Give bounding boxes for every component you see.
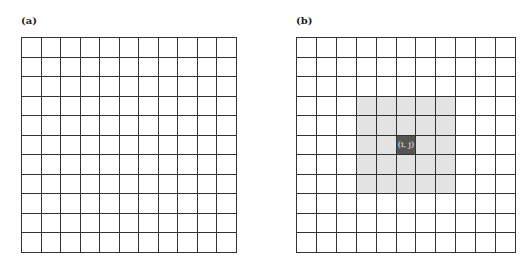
grid-cell	[178, 38, 198, 58]
grid-cell	[159, 136, 179, 156]
neighborhood-cell	[416, 155, 436, 175]
grid-cell	[139, 77, 159, 97]
grid-cell	[159, 97, 179, 117]
grid-cell	[81, 214, 101, 234]
grid-cell	[139, 97, 159, 117]
panel-b-label: (b)	[296, 15, 312, 26]
grid-cell	[416, 77, 436, 97]
grid-cell	[42, 97, 62, 117]
grid-cell	[100, 214, 120, 234]
grid-cell	[317, 175, 337, 195]
grid-cell	[456, 136, 476, 156]
grid-cell	[297, 214, 317, 234]
grid-cell	[436, 233, 456, 253]
grid-cell	[198, 38, 218, 58]
grid-cell	[337, 214, 357, 234]
grid-cell	[81, 155, 101, 175]
grid-cell	[436, 77, 456, 97]
neighborhood-cell	[416, 175, 436, 195]
grid-cell	[217, 233, 237, 253]
grid-cell	[81, 97, 101, 117]
grid-cell	[337, 38, 357, 58]
grid-cell	[178, 175, 198, 195]
grid-cell	[139, 194, 159, 214]
grid-cell	[139, 155, 159, 175]
neighborhood-cell	[436, 116, 456, 136]
grid-cell	[139, 136, 159, 156]
grid-cell	[416, 194, 436, 214]
grid-cell	[297, 194, 317, 214]
grid-cell	[496, 58, 516, 78]
grid-cell	[357, 194, 377, 214]
grid-cell	[100, 77, 120, 97]
grid-cell	[476, 233, 496, 253]
grid-cell	[357, 233, 377, 253]
grid-cell	[42, 116, 62, 136]
grid-cell	[476, 175, 496, 195]
grid-cell	[456, 214, 476, 234]
grid-cell	[476, 38, 496, 58]
grid-cell	[178, 77, 198, 97]
grid-cell	[496, 38, 516, 58]
grid-cell	[337, 175, 357, 195]
grid-cell	[456, 194, 476, 214]
grid-cell	[217, 214, 237, 234]
grid-cell	[317, 116, 337, 136]
grid-cell	[22, 175, 42, 195]
grid-cell	[357, 214, 377, 234]
grid-cell	[337, 155, 357, 175]
grid-cell	[120, 116, 140, 136]
grid-cell	[337, 136, 357, 156]
grid-cell	[159, 194, 179, 214]
neighborhood-cell	[377, 97, 397, 117]
grid-cell	[416, 58, 436, 78]
grid-cell	[397, 58, 417, 78]
grid-cell	[198, 175, 218, 195]
grid-a	[21, 37, 237, 253]
grid-cell	[217, 116, 237, 136]
grid-cell	[416, 233, 436, 253]
grid-cell	[198, 116, 218, 136]
grid-cell	[120, 175, 140, 195]
grid-cell	[198, 194, 218, 214]
grid-cell	[337, 77, 357, 97]
grid-cell	[61, 97, 81, 117]
grid-cell	[217, 194, 237, 214]
grid-cell	[377, 194, 397, 214]
grid-cell	[61, 116, 81, 136]
grid-cell	[397, 38, 417, 58]
grid-cell	[377, 38, 397, 58]
grid-cell	[198, 233, 218, 253]
grid-cell	[178, 97, 198, 117]
grid-cell	[61, 136, 81, 156]
neighborhood-cell	[357, 136, 377, 156]
grid-cell	[61, 233, 81, 253]
grid-cell	[198, 136, 218, 156]
neighborhood-cell	[357, 155, 377, 175]
grid-cell	[297, 175, 317, 195]
grid-cell	[436, 58, 456, 78]
grid-cell	[496, 97, 516, 117]
grid-cell	[22, 214, 42, 234]
grid-cell	[159, 58, 179, 78]
grid-cell	[100, 233, 120, 253]
grid-cell	[297, 38, 317, 58]
neighborhood-cell	[397, 97, 417, 117]
grid-cell	[42, 155, 62, 175]
grid-cell	[22, 233, 42, 253]
grid-cell	[81, 233, 101, 253]
neighborhood-cell	[377, 175, 397, 195]
neighborhood-cell	[416, 97, 436, 117]
grid-cell	[81, 175, 101, 195]
grid-cell	[397, 77, 417, 97]
grid-cell	[436, 214, 456, 234]
grid-cell	[198, 58, 218, 78]
grid-cell	[377, 233, 397, 253]
neighborhood-cell	[436, 97, 456, 117]
grid-cell	[496, 155, 516, 175]
neighborhood-cell	[357, 97, 377, 117]
grid-cell	[120, 214, 140, 234]
grid-cell	[476, 194, 496, 214]
grid-cell	[317, 155, 337, 175]
neighborhood-cell	[377, 136, 397, 156]
